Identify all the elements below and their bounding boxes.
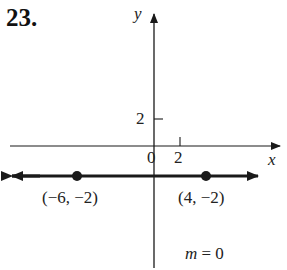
x-tick-label: 2 [174, 148, 183, 168]
y-axis-label: y [134, 4, 142, 24]
origin-label: 0 [147, 148, 156, 168]
point-neg6-neg2 [72, 171, 82, 181]
y-tick-label: 2 [136, 109, 145, 129]
x-axis-label: x [268, 150, 276, 170]
point-4-neg2 [201, 171, 211, 181]
slope-value: = 0 [197, 244, 224, 263]
point-label-right: (4, −2) [178, 188, 224, 208]
point-label-left: (−6, −2) [42, 188, 98, 208]
coordinate-plane [0, 0, 287, 270]
slope-var: m [185, 244, 197, 263]
slope-label: m = 0 [185, 244, 224, 264]
